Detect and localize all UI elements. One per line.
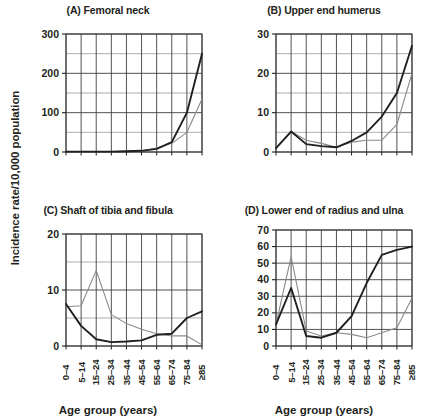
panel-b-svg: 0102030 (216, 0, 432, 205)
x-tick-label: 45–54 (346, 351, 358, 397)
x-tick-label: 45–54 (136, 351, 148, 397)
x-tick-label-text: 0–4 (271, 365, 282, 380)
x-tick-label: 55–64 (151, 351, 163, 397)
y-tick-label: 10 (257, 323, 269, 335)
x-tick-label-text: 65–74 (166, 360, 177, 386)
x-tick-label: 25–34 (105, 351, 117, 397)
y-tick-label: 30 (257, 28, 269, 40)
y-tick-label: 20 (257, 67, 269, 79)
x-tick-label: 25–34 (315, 351, 327, 397)
x-tick-label: 75–84 (181, 351, 193, 397)
x-tick-label: ≥85 (406, 351, 418, 397)
y-tick-label: 60 (257, 240, 269, 252)
x-tick-label-text: 55–64 (361, 360, 372, 386)
y-tick-label: 70 (257, 224, 269, 236)
x-tick-label: 55–64 (361, 351, 373, 397)
y-tick-label: 40 (257, 273, 269, 285)
x-tick-label-text: 25–34 (106, 360, 117, 386)
x-tick-label-text: 15–24 (91, 360, 102, 386)
x-tick-label: ≥85 (196, 351, 208, 397)
x-tick-label-text: 5–14 (286, 362, 297, 383)
x-tick-label: 65–74 (376, 351, 388, 397)
x-tick-label-text: 75–84 (181, 360, 192, 386)
x-tick-label: 0–4 (60, 351, 72, 397)
panel-a-plot: 0100200300 (0, 0, 216, 205)
x-tick-label-text: ≥85 (407, 365, 418, 380)
y-tick-label: 0 (263, 340, 269, 352)
x-tick-label: 65–74 (166, 351, 178, 397)
y-tick-label: 200 (41, 67, 59, 79)
x-tick-label: 75–84 (391, 351, 403, 397)
y-tick-label: 10 (257, 106, 269, 118)
y-tick-label: 300 (41, 28, 59, 40)
panel-c-xtick-row: 0–45–1415–2425–3435–4445–5455–6465–7475–… (0, 351, 216, 399)
y-tick-label: 30 (257, 290, 269, 302)
x-tick-label-text: 65–74 (376, 360, 387, 386)
y-tick-label: 20 (257, 306, 269, 318)
x-tick-label: 5–14 (285, 351, 297, 397)
panel-d-x-axis-title: Age group (years) (216, 404, 432, 416)
panel-c: (C) Shaft of tibia and fibula 01020 0–45… (0, 192, 216, 409)
x-tick-label-text: 25–34 (316, 360, 327, 386)
plot-background (276, 230, 412, 346)
panel-a: (A) Femoral neck 0100200300 (0, 0, 216, 205)
x-tick-label-text: ≥85 (197, 365, 208, 380)
x-tick-label: 15–24 (90, 351, 102, 397)
panel-a-svg: 0100200300 (0, 0, 216, 205)
x-tick-label-text: 0–4 (61, 365, 72, 380)
y-tick-label: 100 (41, 106, 59, 118)
y-tick-label: 20 (47, 228, 59, 240)
x-tick-label-text: 55–64 (151, 360, 162, 386)
x-tick-label-text: 35–44 (331, 360, 342, 386)
x-tick-label: 0–4 (270, 351, 282, 397)
y-tick-label: 0 (53, 146, 59, 158)
x-tick-label: 15–24 (300, 351, 312, 397)
panel-c-x-axis-title: Age group (years) (0, 404, 216, 416)
y-tick-label: 50 (257, 257, 269, 269)
x-tick-label-text: 45–54 (346, 360, 357, 386)
x-tick-label-text: 15–24 (301, 360, 312, 386)
x-tick-label-text: 45–54 (136, 360, 147, 386)
x-tick-label-text: 75–84 (391, 360, 402, 386)
panel-b-plot: 0102030 (216, 0, 432, 205)
y-tick-label: 10 (47, 284, 59, 296)
x-tick-label: 35–44 (120, 351, 132, 397)
panel-d-xtick-row: 0–45–1415–2425–3435–4445–5455–6465–7475–… (216, 351, 432, 399)
x-tick-label-text: 5–14 (76, 362, 87, 383)
y-tick-label: 0 (263, 146, 269, 158)
y-tick-label: 0 (53, 340, 59, 352)
panel-d: (D) Lower end of radius and ulna 0102030… (216, 192, 432, 409)
x-tick-label: 5–14 (75, 351, 87, 397)
panel-b: (B) Upper end humerus 0102030 (216, 0, 432, 205)
x-tick-label: 35–44 (330, 351, 342, 397)
x-tick-label-text: 35–44 (121, 360, 132, 386)
